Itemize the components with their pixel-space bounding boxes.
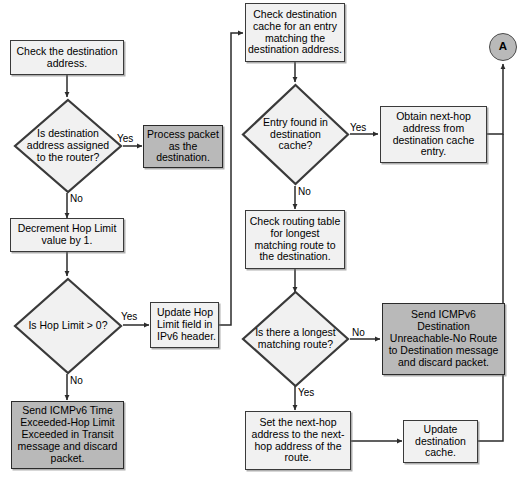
node-update-hop-limit-field: Update Hop Limit field in IPv6 header. bbox=[150, 302, 219, 348]
node-is-destination-assigned: Is destination address assigned to the r… bbox=[13, 98, 123, 194]
node-text: Is there a longest matching route? bbox=[254, 327, 337, 351]
node-process-packet-as-destination: Process packet as the destination. bbox=[143, 125, 223, 168]
node-set-next-hop-address: Set the next-hop address to the next-hop… bbox=[245, 411, 351, 470]
node-text: Entry found in destination cache? bbox=[254, 117, 337, 153]
node-text: Update destination cache. bbox=[404, 424, 477, 460]
flowchart-canvas: Check the destination address. Is destin… bbox=[0, 0, 523, 483]
node-text: Obtain next-hop address from destination… bbox=[381, 111, 486, 159]
node-text: Update Hop Limit field in IPv6 header. bbox=[151, 307, 218, 343]
node-text: Send ICMPv6 Destination Unreachable-No R… bbox=[383, 309, 504, 369]
node-entry-found-in-destination-cache: Entry found in destination cache? bbox=[241, 83, 350, 186]
node-is-hop-limit-greater-than-zero: Is Hop Limit > 0? bbox=[13, 277, 123, 375]
edge-label-yes-longest-match: Yes bbox=[298, 387, 314, 398]
edge-label-no-longest-match: No bbox=[352, 327, 365, 338]
node-text: Send ICMPv6 Time Exceeded-Hop Limit Exce… bbox=[12, 405, 123, 465]
node-send-icmpv6-destination-unreachable: Send ICMPv6 Destination Unreachable-No R… bbox=[382, 303, 505, 375]
node-check-destination-address: Check the destination address. bbox=[10, 40, 124, 75]
node-send-icmpv6-time-exceeded: Send ICMPv6 Time Exceeded-Hop Limit Exce… bbox=[11, 401, 124, 469]
node-text: Set the next-hop address to the next-hop… bbox=[246, 417, 350, 465]
edge-label-yes-hop-limit: Yes bbox=[121, 311, 137, 322]
node-text: Is destination address assigned to the r… bbox=[26, 128, 110, 164]
node-text: Check the destination address. bbox=[11, 46, 123, 70]
node-check-routing-table: Check routing table for longest matching… bbox=[245, 210, 345, 269]
connector-label: A bbox=[499, 40, 507, 53]
node-update-destination-cache: Update destination cache. bbox=[403, 420, 478, 463]
edge-label-yes-entry-found: Yes bbox=[350, 122, 366, 133]
node-obtain-next-hop-address: Obtain next-hop address from destination… bbox=[380, 106, 487, 163]
node-is-there-longest-matching-route: Is there a longest matching route? bbox=[241, 290, 350, 388]
node-text: Process packet as the destination. bbox=[144, 129, 222, 165]
edge-label-no-hop-limit: No bbox=[70, 375, 83, 386]
edge-label-no-destination-assigned: No bbox=[70, 193, 83, 204]
connector-a: A bbox=[489, 33, 517, 61]
node-check-destination-cache: Check destination cache for an entry mat… bbox=[245, 3, 345, 62]
node-text: Decrement Hop Limit value by 1. bbox=[11, 223, 123, 247]
edge-label-yes-destination-assigned: Yes bbox=[117, 133, 133, 144]
edge-label-no-entry-found: No bbox=[298, 186, 311, 197]
node-text: Check routing table for longest matching… bbox=[246, 216, 344, 264]
node-text: Is Hop Limit > 0? bbox=[26, 320, 110, 332]
node-text: Check destination cache for an entry mat… bbox=[246, 9, 344, 57]
node-decrement-hop-limit: Decrement Hop Limit value by 1. bbox=[10, 218, 124, 252]
